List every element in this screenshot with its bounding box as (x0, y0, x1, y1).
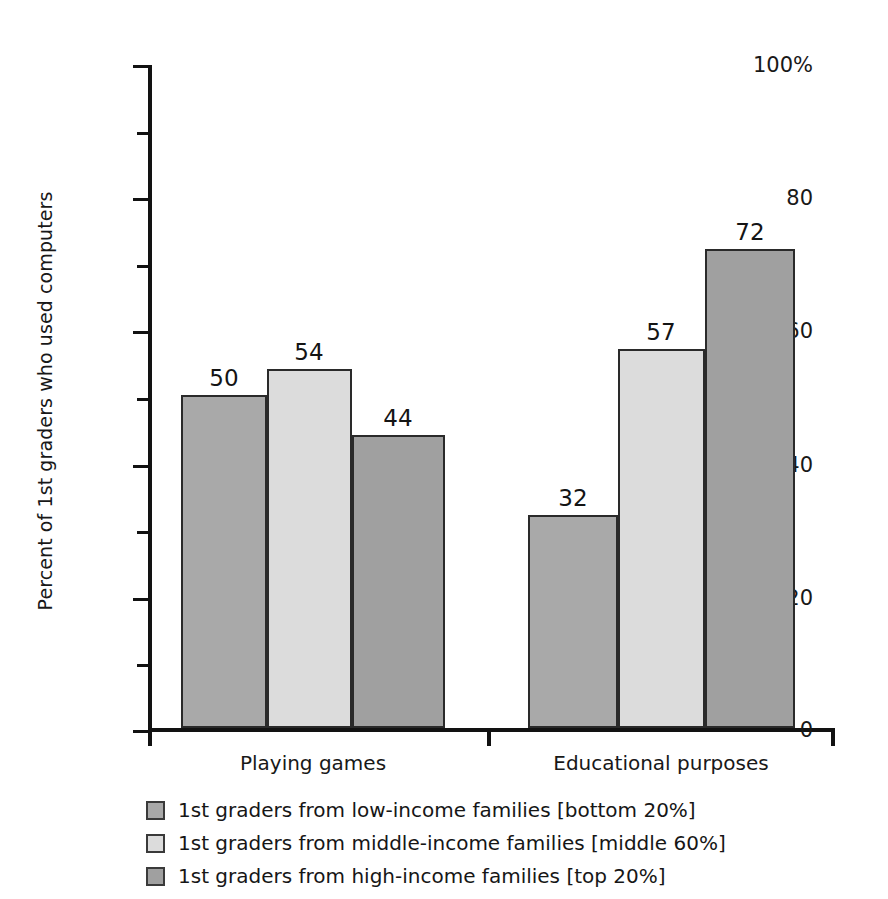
bar-educational-purposes-high (705, 249, 795, 728)
y-tick-60 (133, 331, 148, 334)
y-tick-label-100: 100% (753, 53, 813, 77)
y-minor-tick-10 (137, 664, 148, 667)
legend-label-low-income: 1st graders from low-income families [bo… (178, 798, 696, 822)
legend: 1st graders from low-income families [bo… (146, 797, 726, 889)
y-tick-40 (133, 465, 148, 468)
x-axis-line (148, 728, 835, 732)
bar-value-playing-games-high: 44 (383, 405, 412, 431)
y-tick-100 (133, 65, 148, 68)
x-tick-middle (487, 728, 491, 746)
y-minor-tick-70 (137, 265, 148, 268)
plot-area: 100% 80 60 40 20 0 50 54 44 32 57 (148, 65, 835, 731)
bar-playing-games-high (352, 435, 445, 728)
legend-swatch-middle-income (146, 834, 165, 853)
y-minor-tick-50 (137, 398, 148, 401)
legend-label-middle-income: 1st graders from middle-income families … (178, 831, 726, 855)
legend-swatch-high-income (146, 867, 165, 886)
legend-item-middle-income[interactable]: 1st graders from middle-income families … (146, 830, 726, 856)
y-axis-label: Percent of 1st graders who used computer… (34, 191, 56, 611)
legend-item-high-income[interactable]: 1st graders from high-income families [t… (146, 863, 726, 889)
bar-value-educational-purposes-high: 72 (735, 219, 764, 245)
bar-value-playing-games-low: 50 (209, 365, 238, 391)
bar-playing-games-low (181, 395, 267, 728)
bar-playing-games-middle (267, 369, 352, 728)
y-tick-0 (133, 730, 148, 733)
legend-item-low-income[interactable]: 1st graders from low-income families [bo… (146, 797, 726, 823)
y-minor-tick-90 (137, 132, 148, 135)
y-tick-label-80: 80 (786, 186, 813, 210)
y-tick-20 (133, 598, 148, 601)
x-tick-left (148, 728, 152, 746)
category-label-playing-games: Playing games (240, 751, 386, 775)
category-label-educational-purposes: Educational purposes (553, 751, 768, 775)
bar-value-educational-purposes-middle: 57 (646, 319, 675, 345)
y-minor-tick-30 (137, 531, 148, 534)
y-tick-80 (133, 198, 148, 201)
legend-swatch-low-income (146, 801, 165, 820)
bar-educational-purposes-low (528, 515, 618, 728)
legend-label-high-income: 1st graders from high-income families [t… (178, 864, 666, 888)
bar-value-playing-games-middle: 54 (294, 339, 323, 365)
y-axis-line (148, 65, 152, 732)
bar-educational-purposes-middle (618, 349, 705, 728)
bar-value-educational-purposes-low: 32 (558, 485, 587, 511)
bar-chart-figure: Percent of 1st graders who used computer… (0, 0, 888, 899)
y-tick-label-0: 0 (800, 718, 813, 742)
x-tick-right (831, 728, 835, 746)
